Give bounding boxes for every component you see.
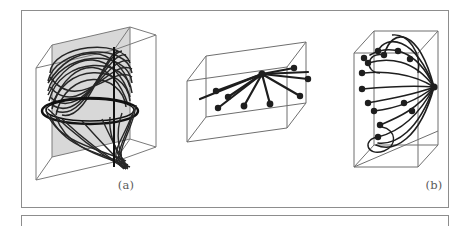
figure-panel-b: (b): [182, 11, 322, 209]
hub-node: [430, 83, 437, 90]
node: [365, 60, 371, 66]
panel-b-drawing: [182, 11, 322, 209]
panel-c-drawing: [322, 11, 450, 209]
node: [258, 70, 265, 77]
node: [225, 94, 231, 100]
box-wireframe-b: [187, 42, 306, 142]
node: [359, 86, 365, 92]
figure-frame: (a): [21, 10, 449, 208]
node: [361, 55, 367, 61]
figure-panel-a: (a): [22, 11, 182, 209]
node: [365, 100, 371, 106]
node: [375, 134, 381, 140]
node: [395, 48, 401, 54]
node: [381, 52, 387, 58]
node: [297, 93, 303, 99]
node: [377, 122, 383, 128]
next-figure-frame: [21, 215, 449, 226]
node: [359, 70, 365, 76]
node: [305, 76, 311, 82]
node: [291, 65, 297, 71]
node: [267, 101, 274, 108]
figure-page: (a): [0, 0, 470, 226]
node: [407, 56, 413, 62]
panel-a-caption: (a): [96, 178, 156, 192]
node: [409, 108, 415, 114]
node: [401, 100, 407, 106]
node: [241, 103, 248, 110]
node: [215, 105, 221, 111]
node: [371, 108, 377, 114]
figure-panel-c: (c): [322, 11, 450, 209]
node: [375, 48, 381, 54]
node: [213, 88, 219, 94]
